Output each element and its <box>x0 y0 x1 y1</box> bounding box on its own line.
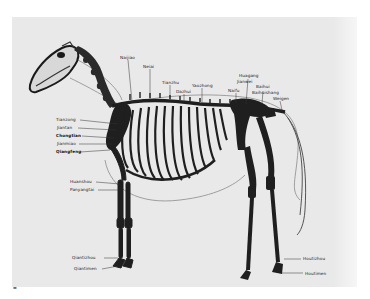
label-yaozhong: Yaozhong <box>192 83 213 88</box>
label-tianzhu: Tianzhu <box>162 80 179 85</box>
label-jiantan: Jiantan <box>57 125 72 130</box>
label-houtizhou: Houtizhou <box>303 256 325 261</box>
neck-vertebrae <box>74 46 116 108</box>
front-leg <box>110 146 133 268</box>
skull <box>30 42 79 92</box>
tail <box>283 112 306 235</box>
label-qiangfeng: Qiangfeng <box>56 149 81 154</box>
label-naifu: Naifu <box>228 88 240 93</box>
label-weigen: Weigen <box>273 96 289 101</box>
label-jianmiao: Jianmiao <box>57 141 76 146</box>
label-naijiao: Naijiao <box>120 55 135 60</box>
label-qiantizhou: Qiantizhou <box>72 255 96 260</box>
label-chongtian: Chongtian <box>56 133 81 138</box>
hind-leg <box>240 116 283 280</box>
label-neiai: Neiai <box>143 64 154 69</box>
corner-mark: ▬ <box>13 285 17 290</box>
label-baihuishang: Baihuishang <box>252 90 279 95</box>
label-baihui: Baihui <box>256 84 270 89</box>
label-qiantimen: Qiantimen <box>74 266 97 271</box>
label-dazhui: Dazhui <box>176 89 191 94</box>
label-huanshou: Huanshou <box>70 179 92 184</box>
scapula <box>106 103 131 150</box>
label-huagang: Huagang <box>239 73 259 78</box>
label-jianwei: Jianwei <box>237 79 252 84</box>
label-houtimen: Houtimen <box>305 271 326 276</box>
ribcage <box>122 106 227 180</box>
label-tianzong: Tianzong <box>56 117 76 122</box>
label-panyangtai: Panyangtai <box>70 187 94 192</box>
